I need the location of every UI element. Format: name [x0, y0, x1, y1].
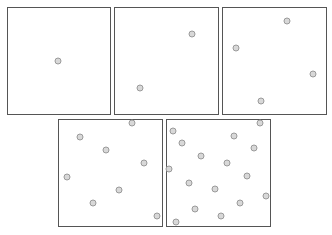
dot-marker [103, 147, 110, 154]
panel-2 [114, 7, 219, 115]
dot-marker [179, 140, 186, 147]
dot-marker [116, 187, 123, 194]
dot-marker [258, 98, 265, 105]
dot-marker [237, 200, 244, 207]
panel-4 [58, 119, 163, 227]
dot-marker [154, 213, 161, 220]
dot-marker [310, 71, 317, 78]
dot-marker [189, 31, 196, 38]
dot-marker [55, 58, 62, 65]
dot-marker [129, 120, 136, 127]
dot-marker [212, 186, 219, 193]
dot-marker [231, 133, 238, 140]
dot-marker [170, 128, 177, 135]
dot-marker [186, 180, 193, 187]
dot-marker [233, 45, 240, 52]
dot-marker [198, 153, 205, 160]
dot-marker [64, 174, 71, 181]
dot-marker [141, 160, 148, 167]
dot-marker [224, 160, 231, 167]
dot-marker [251, 145, 258, 152]
dot-marker [137, 85, 144, 92]
dot-marker [166, 166, 173, 173]
dot-marker [90, 200, 97, 207]
dot-marker [244, 173, 251, 180]
dot-marker [192, 206, 199, 213]
dot-marker [173, 219, 180, 226]
dot-marker [263, 193, 270, 200]
dot-marker [218, 213, 225, 220]
panel-5 [166, 119, 271, 227]
dot-marker [284, 18, 291, 25]
dot-marker [257, 120, 264, 127]
panel-3 [222, 7, 327, 115]
dot-marker [77, 134, 84, 141]
